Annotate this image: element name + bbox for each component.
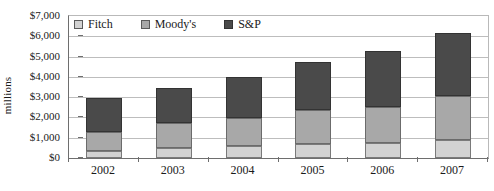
bar-segment	[435, 140, 471, 158]
bar-segment	[226, 118, 262, 146]
y-tick-label: $7,000	[30, 9, 60, 21]
stacked-bar-chart: millions $0$1,000$2,000$3,000$4,000$5,00…	[0, 0, 494, 191]
legend-item[interactable]: S&P	[224, 17, 261, 32]
bar-segment	[156, 88, 192, 123]
bar-segment	[435, 33, 471, 95]
x-tick-label: 2004	[231, 163, 255, 178]
x-tick-label: 2007	[440, 163, 464, 178]
legend-label: Fitch	[88, 17, 113, 32]
y-axis-title: millions	[0, 0, 14, 191]
x-tick-mark	[208, 157, 209, 162]
y-tick-label: $2,000	[30, 110, 60, 122]
y-tick-label: $1,000	[30, 131, 60, 143]
bar-segment	[295, 144, 331, 158]
legend-label: Moody's	[155, 17, 197, 32]
bar-segment	[86, 151, 122, 159]
plot-area	[68, 15, 489, 159]
bar-segment	[156, 148, 192, 158]
bar-segment	[86, 98, 122, 132]
bar-segment	[226, 77, 262, 119]
bar-segment	[295, 110, 331, 144]
bar-segment	[365, 51, 401, 108]
bar-group	[156, 16, 192, 158]
y-tick-label: $3,000	[30, 90, 60, 102]
bar-segment	[365, 107, 401, 143]
bar-segment	[156, 123, 192, 148]
legend-swatch-icon	[141, 20, 150, 29]
bar-group	[226, 16, 262, 158]
bar-group	[86, 16, 122, 158]
legend-item[interactable]: Moody's	[141, 17, 197, 32]
bar-segment	[226, 146, 262, 158]
x-tick-mark	[347, 157, 348, 162]
bar-segment	[365, 143, 401, 158]
x-tick-label: 2002	[91, 163, 115, 178]
x-tick-mark	[487, 157, 488, 162]
y-tick-label: $6,000	[30, 29, 60, 41]
x-tick-mark	[138, 157, 139, 162]
bar-group	[435, 16, 471, 158]
x-tick-label: 2003	[161, 163, 185, 178]
chart-legend: FitchMoody'sS&P	[74, 17, 261, 32]
x-tick-label: 2006	[370, 163, 394, 178]
x-tick-mark	[417, 157, 418, 162]
legend-swatch-icon	[74, 20, 83, 29]
bar-segment	[86, 132, 122, 150]
x-tick-mark	[68, 157, 69, 162]
bar-segment	[435, 96, 471, 140]
bar-segment	[295, 62, 331, 110]
y-tick-label: $0	[49, 151, 60, 163]
bar-series-container	[69, 16, 488, 158]
legend-label: S&P	[238, 17, 261, 32]
y-tick-label: $4,000	[30, 70, 60, 82]
y-axis-tick-labels: $0$1,000$2,000$3,000$4,000$5,000$6,000$7…	[14, 0, 64, 191]
legend-swatch-icon	[224, 20, 233, 29]
x-tick-mark	[278, 157, 279, 162]
legend-item[interactable]: Fitch	[74, 17, 113, 32]
x-tick-label: 2005	[300, 163, 324, 178]
bar-group	[295, 16, 331, 158]
y-tick-label: $5,000	[30, 50, 60, 62]
bar-group	[365, 16, 401, 158]
